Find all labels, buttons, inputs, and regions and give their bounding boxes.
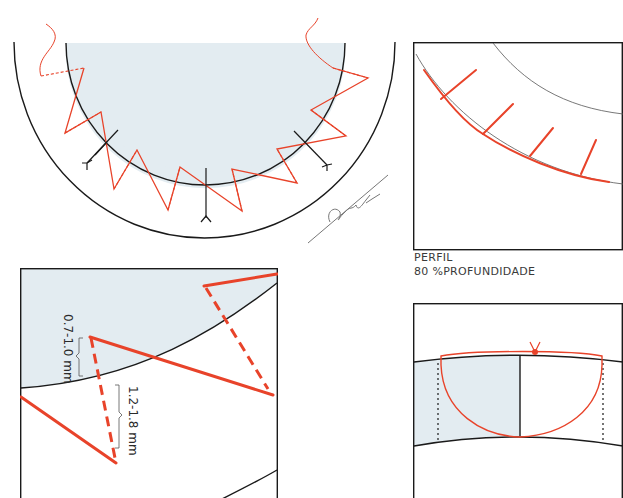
profile-caption: PERFIL 80 %PROFUNDIDADE [414,251,535,279]
lower-edge-curve [220,470,277,498]
artist-signature [308,175,388,243]
profile-diagram [413,42,623,251]
thread-end-left [40,24,55,76]
profile-caption-depth: 80 %PROFUNDIDADE [414,265,535,279]
overview-diagram [0,0,400,250]
tissue-region [21,269,277,388]
detail-illustration [20,268,278,498]
detail-diagram: 0.7-1.0 mm 1.2-1.8 mm [20,268,278,494]
bracket-deep [115,385,122,448]
dimension-label-deep: 1.2-1.8 mm [126,386,140,456]
tissue-region [414,356,520,446]
knot-illustration [413,303,623,498]
dimension-label-superficial: 0.7-1.0 mm [61,314,75,384]
profile-illustration [413,42,623,251]
knot-diagram [413,303,623,494]
profile-caption-title: PERFIL [414,251,535,265]
overview-illustration [0,0,400,250]
